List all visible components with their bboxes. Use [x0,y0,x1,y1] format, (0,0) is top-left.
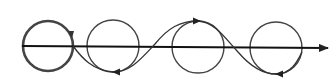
arrow-icon [193,18,201,25]
arrow-icon [112,69,120,76]
arrow-icon [275,71,283,78]
horizontal-axis [22,46,328,48]
rolling-circles-diagram [0,0,336,82]
